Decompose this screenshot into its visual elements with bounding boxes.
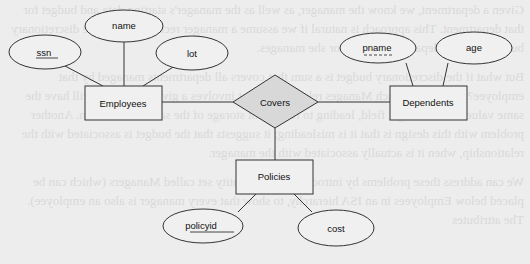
attribute-ssn: ssn [9,35,81,69]
svg-text:Policies: Policies [258,171,291,182]
svg-text:Employees: Employees [100,98,147,109]
svg-text:age: age [466,42,482,53]
svg-text:name: name [112,20,136,31]
connector-policies-cost [294,194,312,212]
attribute-name: name [85,10,163,42]
svg-text:lot: lot [187,48,197,59]
er-diagram: ssn name lot Employees Covers pname age … [0,0,530,264]
svg-text:cost: cost [327,223,345,234]
attribute-cost: cost [298,210,374,246]
attribute-policyid: policyid [163,209,243,243]
attribute-age: age [436,32,512,64]
connector-pname-dependents [406,63,413,86]
connector-age-dependents [443,63,448,86]
entity-employees: Employees [85,86,162,120]
attribute-lot: lot [156,36,228,70]
svg-text:Covers: Covers [260,97,290,108]
svg-text:ssn: ssn [37,47,52,58]
svg-text:pname: pname [362,42,391,53]
attribute-pname: pname [340,33,416,63]
svg-text:policyid: policyid [185,220,217,231]
entity-dependents: Dependents [390,86,467,120]
svg-text:Dependents: Dependents [402,97,453,108]
connector-policies-policyid [238,194,256,212]
connector-ssn-employees [65,66,103,86]
relationship-covers: Covers [233,75,318,128]
entity-policies: Policies [236,160,313,194]
